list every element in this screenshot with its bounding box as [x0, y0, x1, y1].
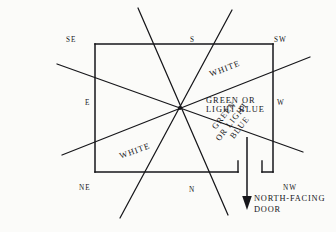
- compass-label-ne: NE: [79, 184, 91, 192]
- north-facing-door-caption: NORTH-FACING DOOR: [254, 194, 325, 216]
- compass-label-s: S: [190, 36, 195, 44]
- room-center-point: [178, 106, 182, 110]
- feng-shui-room-diagram: SE S SW E W NE N NW WHITE GREEN OR LIGHT…: [0, 0, 336, 232]
- compass-label-e: E: [85, 99, 91, 107]
- door-caption-line-2: DOOR: [254, 205, 325, 216]
- compass-label-w: W: [277, 99, 285, 107]
- door-opening: [238, 161, 262, 172]
- north-facing-door-arrow: [242, 137, 252, 210]
- compass-label-se: SE: [66, 36, 77, 44]
- compass-label-nw: NW: [283, 184, 297, 192]
- door-caption-line-1: NORTH-FACING: [254, 194, 325, 205]
- compass-label-n: N: [189, 186, 195, 194]
- arrow-head: [242, 196, 252, 210]
- compass-label-sw: SW: [274, 36, 287, 44]
